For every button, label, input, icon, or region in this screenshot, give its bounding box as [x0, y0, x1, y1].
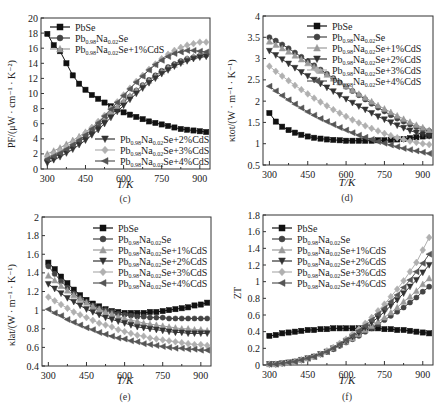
y-tick-label: 8: [33, 103, 38, 114]
triangle-down-marker: [96, 312, 102, 318]
diamond-marker: [375, 128, 381, 135]
triangle-up-marker: [388, 109, 394, 115]
circle-marker: [147, 315, 152, 320]
square-marker: [146, 119, 151, 124]
diamond-marker: [197, 39, 203, 46]
triangle-left-marker: [128, 338, 134, 344]
circle-marker: [173, 316, 178, 321]
circle-marker: [154, 315, 159, 320]
square-marker: [205, 300, 210, 305]
series-circle: [267, 284, 432, 367]
diamond-marker: [292, 82, 298, 89]
square-marker: [267, 333, 272, 338]
triangle-left-marker: [388, 142, 394, 148]
panel-f: 00.20.40.60.811.21.41.61.830045060075090…: [222, 206, 443, 413]
square-marker: [160, 308, 165, 313]
circle-marker: [100, 236, 106, 242]
square-marker: [305, 134, 310, 139]
y-tick-label: 1.4: [27, 267, 40, 278]
y-tick-label: 14: [28, 58, 38, 69]
square-marker: [388, 327, 393, 332]
square-marker: [337, 326, 342, 331]
triangle-left-marker: [413, 148, 419, 154]
x-tick-label: 450: [300, 169, 315, 180]
square-marker: [147, 309, 152, 314]
diamond-marker: [185, 340, 191, 347]
y-tick-label: 0.8: [27, 323, 40, 334]
square-marker: [407, 328, 412, 333]
triangle-down-marker: [273, 53, 279, 59]
triangle-left-marker: [134, 339, 140, 345]
square-marker: [273, 332, 278, 337]
triangle-up-marker: [413, 122, 419, 128]
y-tick-label: 12: [28, 73, 38, 84]
triangle-left-marker: [96, 329, 102, 335]
x-axis-label: T/K: [105, 374, 145, 386]
diamond-marker: [173, 338, 179, 345]
square-marker: [314, 23, 320, 29]
triangle-down-marker: [330, 89, 336, 95]
legend-item: Pb0.98Na0.02Se+4%CdS: [270, 278, 388, 290]
triangle-left-marker: [298, 105, 304, 111]
diamond-marker: [90, 317, 96, 324]
square-marker: [165, 123, 170, 128]
triangle-up-marker: [394, 112, 400, 118]
triangle-up-marker: [273, 42, 279, 48]
triangle-left-marker: [185, 346, 191, 352]
y-tick-label: 0: [255, 360, 260, 371]
diamond-marker: [52, 297, 58, 304]
x-tick-label: 750: [155, 370, 170, 381]
circle-marker: [46, 264, 51, 269]
square-marker: [159, 122, 164, 127]
diamond-marker: [103, 322, 109, 329]
square-marker: [77, 81, 82, 86]
triangle-down-marker: [369, 110, 375, 116]
panel-caption: (f): [327, 391, 367, 402]
circle-marker: [160, 315, 165, 320]
triangle-down-marker: [349, 100, 355, 106]
circle-marker: [192, 316, 197, 321]
triangle-down-marker: [381, 117, 387, 123]
square-marker: [267, 110, 272, 115]
triangle-down-marker: [77, 303, 83, 309]
square-marker: [420, 330, 425, 335]
y-tick-label: 1.4: [248, 243, 261, 254]
diamond-marker: [109, 323, 115, 330]
triangle-left-marker: [147, 342, 153, 348]
triangle-down-marker: [52, 286, 58, 292]
y-axis-label: κtot/(W · m⁻¹ · K⁻¹): [226, 59, 237, 142]
circle-marker: [57, 35, 63, 41]
triangle-left-marker: [349, 130, 355, 136]
square-marker: [414, 329, 419, 334]
legend-item: PbSe: [270, 223, 388, 234]
square-marker: [127, 112, 132, 117]
square-marker: [286, 330, 291, 335]
circle-marker: [314, 34, 320, 40]
triangle-left-marker: [400, 145, 406, 151]
diamond-marker: [382, 130, 388, 137]
x-axis-label: T/K: [327, 176, 367, 188]
triangle-down-marker: [337, 93, 343, 99]
circle-marker: [205, 316, 210, 321]
legend-label: PbSe: [297, 223, 318, 234]
panel-caption: (c): [105, 193, 145, 204]
diamond-marker: [147, 335, 153, 342]
y-tick-label: 4: [255, 11, 260, 22]
triangle-down-marker: [71, 299, 77, 305]
triangle-down-marker: [64, 295, 70, 301]
panel-caption: (e): [105, 391, 145, 402]
triangle-left-marker: [426, 251, 432, 257]
y-axis-label: κlat/(W · m⁻¹ · K⁻¹): [6, 264, 17, 346]
square-marker: [154, 309, 159, 314]
diamond-marker: [153, 336, 159, 343]
triangle-left-marker: [77, 322, 83, 328]
triangle-up-marker: [266, 38, 272, 44]
panel-caption: (d): [327, 192, 367, 203]
diamond-marker: [58, 301, 64, 308]
y-tick-label: 0.6: [27, 342, 40, 353]
square-marker: [299, 328, 304, 333]
circle-marker: [420, 289, 425, 294]
triangle-up-marker: [369, 98, 375, 104]
triangle-down-marker: [266, 48, 272, 54]
triangle-left-marker: [179, 345, 185, 351]
